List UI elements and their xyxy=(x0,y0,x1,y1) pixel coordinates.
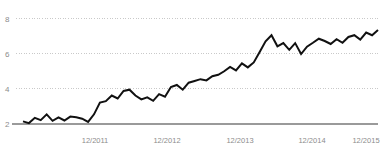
x-tick-label-2013: 12/2013 xyxy=(226,136,253,145)
y-axis-tick-labels: 8 6 4 2 xyxy=(5,15,10,129)
y-tick-label-6: 6 xyxy=(5,50,10,59)
x-tick-label-2015: 12/2015 xyxy=(352,136,379,145)
y-tick-label-2: 2 xyxy=(5,120,10,129)
gridlines xyxy=(16,19,378,89)
line-chart: 8 6 4 2 12/2011 12/2012 12/2013 12/2014 … xyxy=(0,0,384,156)
chart-canvas: 8 6 4 2 12/2011 12/2012 12/2013 12/2014 … xyxy=(0,0,384,156)
y-tick-label-4: 4 xyxy=(5,85,10,94)
x-tick-label-2014: 12/2014 xyxy=(298,136,325,145)
data-series-line xyxy=(23,30,378,123)
x-axis-tick-labels: 12/2011 12/2012 12/2013 12/2014 12/2015 xyxy=(82,136,380,145)
y-tick-label-8: 8 xyxy=(5,15,10,24)
x-tick-label-2011: 12/2011 xyxy=(82,136,109,145)
x-tick-label-2012: 12/2012 xyxy=(153,136,180,145)
